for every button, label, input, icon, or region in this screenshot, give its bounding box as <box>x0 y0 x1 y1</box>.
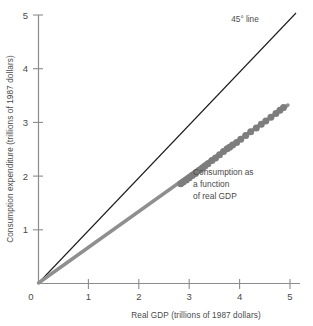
y-tick-label-1: 1 <box>23 224 28 235</box>
x-tick-label-3: 3 <box>187 291 192 302</box>
x-tick-label-1: 1 <box>86 291 91 302</box>
x-tick-label-2: 2 <box>136 291 141 302</box>
chart-canvas: 5 4 3 2 1 0 1 2 3 4 5 Real GDP (trillion… <box>0 0 313 326</box>
y-tick-label-2: 2 <box>23 171 28 182</box>
x-tick-label-0: 0 <box>28 291 33 302</box>
x-axis-title: Real GDP (trillions of 1987 dollars) <box>131 311 261 320</box>
x-tick-label-4: 4 <box>237 291 242 302</box>
y-axis-title: Consumption expenditure (trillions of 19… <box>6 55 15 243</box>
y-tick-label-5: 5 <box>23 10 28 21</box>
y-tick-label-3: 3 <box>23 117 28 128</box>
scatter-point <box>280 104 287 111</box>
y-tick-label-4: 4 <box>23 63 28 74</box>
annotation-line-1: Consumption as <box>193 167 254 177</box>
consumption-function-chart: 5 4 3 2 1 0 1 2 3 4 5 Real GDP (trillion… <box>0 0 313 326</box>
forty-five-degree-label: 45° line <box>231 15 259 24</box>
annotation-line-2: a function <box>193 179 230 189</box>
x-tick-label-5: 5 <box>287 291 292 302</box>
annotation-line-3: of real GDP <box>193 191 237 201</box>
